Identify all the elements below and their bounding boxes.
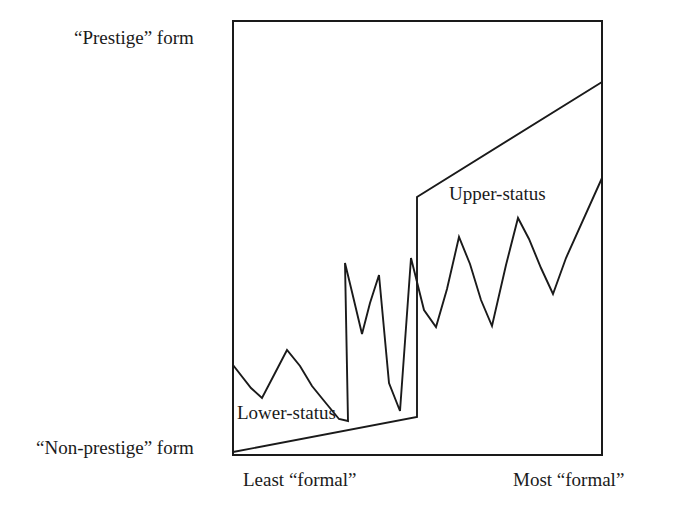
x-axis-label-left: Least “formal” [243,470,356,489]
figure-root: “Prestige” form “Non-prestige” form Leas… [0,0,700,518]
y-axis-label-top: “Prestige” form [74,28,194,47]
x-axis-label-right: Most “formal” [513,470,624,489]
series-label-lower-status: Lower-status [237,403,336,422]
y-axis-label-bottom: “Non-prestige” form [36,438,194,457]
series-label-upper-status: Upper-status [449,184,546,203]
